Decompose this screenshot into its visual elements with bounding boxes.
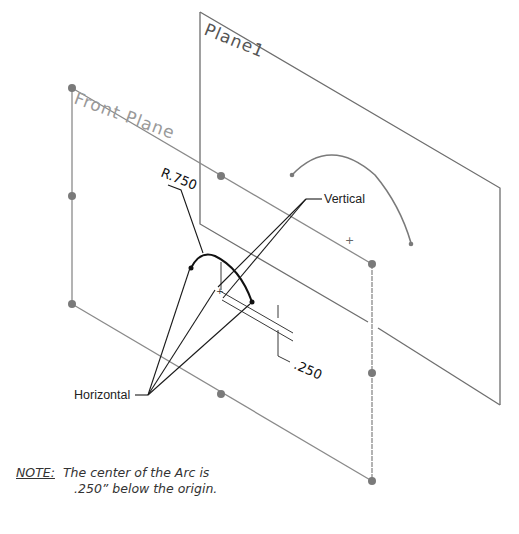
radius-leader [168,185,203,253]
resize-handle[interactable] [217,390,225,398]
resize-handle[interactable] [217,172,225,180]
resize-handle[interactable] [68,192,76,200]
plane1: Plane1 + [200,12,500,405]
vertical-label: Vertical [324,192,365,206]
resize-handle[interactable] [368,260,376,268]
leader-line [223,199,306,298]
resize-handle[interactable] [368,477,376,485]
extension-line [222,300,293,341]
note-line1: The center of the Arc is [63,465,209,480]
origin-icon: + [345,234,354,247]
vertical-callout: Vertical [218,192,365,298]
offset-dimension-text: .250 [292,357,325,382]
arc-endpoint [409,242,414,247]
radius-dimension-text: R.750 [159,165,199,193]
plane1-label: Plane1 [202,19,268,61]
resize-handle[interactable] [368,369,376,377]
plane1-edge-top-right [200,12,500,405]
center-mark-icon: + [216,286,224,296]
resize-handle[interactable] [68,300,76,308]
plane1-edge-bottom [378,328,500,405]
horizontal-label: Horizontal [74,388,130,402]
sketch-arc: + [189,255,294,363]
arc-endpoint [290,173,295,178]
horizontal-callout: Horizontal [74,268,250,402]
resize-handle[interactable] [68,84,76,92]
note-label: NOTE: [16,465,55,480]
extension-line [220,291,293,333]
leader-line [148,290,215,395]
note-line2: .250” below the origin. [16,481,217,497]
front-plane: Front Plane [68,84,376,485]
front-plane-label: Front Plane [72,88,178,143]
plane1-edge-left-bottom [200,12,368,322]
radius-dimension[interactable]: R.750 [159,165,203,253]
offset-dimension[interactable]: .250 [292,357,325,382]
dimension-leader [278,356,290,362]
note: NOTE:The center of the Arc is .250” belo… [16,465,217,497]
sketch-diagram: Plane1 + Front Plane + R.750 [0,0,519,534]
leader-line [218,199,306,287]
arc-endpoint[interactable] [250,300,255,305]
